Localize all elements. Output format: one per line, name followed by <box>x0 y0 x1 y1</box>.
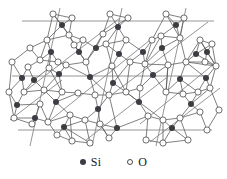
atom-o <box>59 89 65 95</box>
atom-o <box>37 57 43 63</box>
atom-o <box>92 92 98 98</box>
atom-o <box>123 89 129 95</box>
atom-o <box>75 90 81 96</box>
legend: Si O <box>0 150 227 174</box>
atom-o <box>197 37 203 43</box>
legend-entry-si: Si <box>80 156 101 168</box>
open-circle-icon <box>127 159 133 165</box>
atom-o <box>27 45 33 51</box>
atom-o <box>197 109 203 115</box>
atom-o <box>160 117 166 123</box>
atom-si <box>116 51 122 57</box>
legend-label-si: Si <box>91 156 101 168</box>
atom-o <box>82 117 88 123</box>
atom-o <box>165 62 171 68</box>
atom-o <box>25 64 31 70</box>
atom-si <box>95 106 101 112</box>
figure-root: Si O <box>0 0 227 179</box>
atom-o <box>41 87 47 93</box>
atom-o <box>69 138 75 144</box>
atom-o <box>127 59 133 65</box>
atom-o <box>21 89 27 95</box>
atom-si <box>173 22 179 28</box>
atom-o <box>66 32 72 38</box>
atom-o <box>202 59 208 65</box>
atom-si <box>159 45 165 51</box>
atom-o <box>9 59 15 65</box>
atom-o <box>103 41 109 47</box>
atom-o <box>207 85 213 91</box>
legend-entry-o: O <box>127 156 147 168</box>
atom-si <box>48 49 54 55</box>
atom-si <box>56 71 62 77</box>
atom-o <box>137 85 143 91</box>
atom-o <box>87 140 93 146</box>
atom-o <box>83 59 89 65</box>
atom-si <box>188 101 194 107</box>
atom-si <box>204 49 210 55</box>
atom-o <box>183 59 189 65</box>
atom-si <box>61 124 67 130</box>
atom-o <box>145 113 151 119</box>
atom-si <box>203 75 209 81</box>
atom-si <box>53 99 59 105</box>
unit-cell-lines <box>10 8 220 146</box>
atom-si <box>59 22 65 28</box>
atom-o <box>195 89 201 95</box>
legend-label-o: O <box>138 156 147 168</box>
atom-si <box>87 74 93 80</box>
atom-o <box>50 11 56 17</box>
atom-o <box>11 115 17 121</box>
atom-o <box>185 137 191 143</box>
atom-o <box>55 59 61 65</box>
atom-o <box>97 121 103 127</box>
atom-si <box>14 102 20 108</box>
oxygen-atoms <box>6 11 222 146</box>
atom-si <box>169 125 175 131</box>
atom-o <box>209 41 215 47</box>
atom-si <box>115 24 121 30</box>
atom-si <box>31 77 37 83</box>
atom-si <box>76 49 82 55</box>
atom-o <box>106 135 112 141</box>
atom-o <box>109 63 115 69</box>
atom-o <box>45 119 51 125</box>
atom-o <box>158 33 164 39</box>
atom-o <box>46 65 52 71</box>
atom-o <box>149 37 155 43</box>
atom-o <box>63 62 69 68</box>
atom-o <box>163 89 169 95</box>
crystal-structure-diagram <box>0 0 227 152</box>
atom-si <box>114 125 120 131</box>
atom-o <box>71 42 77 48</box>
atom-o <box>143 137 149 143</box>
atom-o <box>6 89 12 95</box>
atom-o <box>100 31 106 37</box>
filled-circle-icon <box>80 159 86 165</box>
atom-o <box>123 37 129 43</box>
atom-si <box>150 72 156 78</box>
atom-si <box>177 76 183 82</box>
atom-si <box>32 115 38 121</box>
atom-o <box>177 35 183 41</box>
atom-o <box>180 91 186 97</box>
atom-si <box>19 75 25 81</box>
atom-o <box>163 11 169 17</box>
atom-o <box>69 15 75 21</box>
atom-o <box>80 37 86 43</box>
atom-o <box>54 132 60 138</box>
atom-o <box>67 112 73 118</box>
atom-o <box>204 127 210 133</box>
atom-si <box>93 45 99 51</box>
atom-o <box>213 63 219 69</box>
atom-si <box>140 49 146 55</box>
bond-network <box>9 14 219 143</box>
atom-o <box>37 101 43 107</box>
atom-o <box>107 11 113 17</box>
atom-o <box>160 140 166 146</box>
atom-o <box>142 61 148 67</box>
atom-o <box>125 15 131 21</box>
atom-o <box>181 15 187 21</box>
atom-si <box>136 99 142 105</box>
atom-si <box>110 80 116 86</box>
